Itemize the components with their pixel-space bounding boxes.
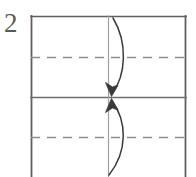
diagram-canvas: 2 [0, 0, 196, 177]
origami-step-diagram: 2 [0, 0, 196, 177]
step-number-label: 2 [4, 8, 18, 38]
diagram-background [0, 0, 196, 177]
